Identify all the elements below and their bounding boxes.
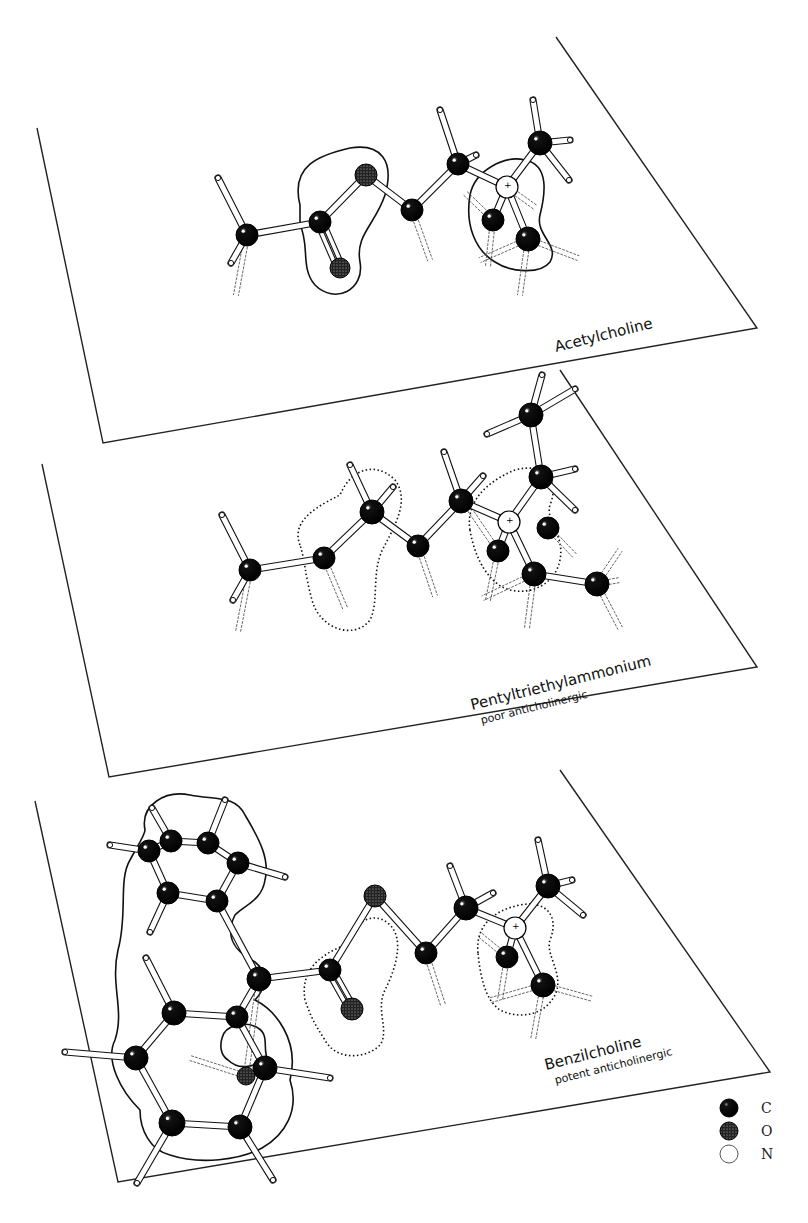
carbon-atom (454, 896, 478, 920)
carbon-atom (162, 1001, 186, 1025)
hydrogen-tip (566, 177, 571, 182)
carbon-atom (516, 227, 540, 251)
atom-highlight (259, 1062, 262, 1065)
oxygen-atom (364, 885, 386, 907)
atom-highlight (130, 1052, 133, 1055)
oxygen-atom (355, 164, 377, 186)
nitrogen-atom-icon (720, 1145, 738, 1163)
atom-highlight (319, 553, 322, 556)
hydrogen-tip (134, 1180, 139, 1185)
atom-highlight (245, 565, 248, 568)
atom-highlight (203, 838, 206, 841)
atom-highlight (166, 1117, 169, 1120)
panel-acetylcholine: +Acetylcholine (37, 37, 757, 443)
hydrogen-tip (480, 473, 485, 478)
oxygen-atom (330, 258, 350, 278)
bond (330, 896, 375, 970)
carbon-atom (239, 559, 261, 581)
hydrogen-tip (572, 386, 577, 391)
hydrogen-tip (215, 175, 220, 180)
carbon-atom (407, 535, 429, 557)
atom-highlight (315, 217, 318, 220)
atom-highlight (413, 541, 416, 544)
carbon-atom (496, 946, 518, 968)
atom-highlight (234, 1121, 237, 1124)
hydrogen-tip (580, 912, 585, 917)
molecule-label: Acetylcholine (553, 314, 655, 356)
positive-charge-icon: + (512, 921, 520, 931)
carbon-atom (124, 1046, 148, 1070)
atom-highlight (325, 965, 328, 968)
atom-highlight (534, 137, 537, 140)
hydrogen-tip (441, 449, 446, 454)
atom-highlight (168, 1007, 171, 1010)
carbon-atom (519, 403, 543, 427)
carbon-atom (449, 489, 473, 513)
atom-highlight (453, 159, 456, 162)
hydrogen-tip (230, 597, 235, 602)
hydrogen-tip (569, 877, 574, 882)
hydrogen-tip (149, 805, 154, 810)
atom-highlight (543, 523, 546, 526)
carbon-atom (227, 852, 249, 874)
panel-benzilcholine: +Benzilcholinepotent anticholinergic (35, 770, 770, 1186)
hydrogen-tip (484, 431, 489, 436)
atom-highlight (455, 495, 458, 498)
carbon-atom (447, 153, 469, 175)
atom-highlight (522, 233, 525, 236)
positive-charge-icon: + (506, 515, 514, 525)
carbon-atom (536, 874, 560, 898)
hydrogen-tip (282, 874, 287, 879)
legend-item-oxygen: O (720, 1122, 772, 1140)
molecule-name: Acetylcholine (553, 314, 655, 356)
hydrogen-tip (539, 372, 544, 377)
atom-highlight (212, 896, 215, 899)
carbon-atom (253, 1056, 277, 1080)
carbon-atom (585, 572, 609, 596)
carbon-atom (529, 465, 553, 489)
legend-label-carbon: C (761, 1100, 772, 1116)
atom-highlight (407, 205, 410, 208)
hydrogen-tip (228, 260, 233, 265)
atom-highlight (144, 846, 147, 849)
carbon-atom (160, 830, 182, 852)
carbon-atom (236, 224, 258, 246)
hydrogen-tip (572, 466, 577, 471)
molecule-label: Benzilcholinepotent anticholinergic (543, 1026, 674, 1089)
legend: C O N (720, 1099, 773, 1163)
atom-highlight (488, 215, 491, 218)
atom-highlight (535, 471, 538, 474)
carbon-atom (319, 959, 341, 981)
atom-highlight (166, 836, 169, 839)
carbon-atom (228, 1115, 252, 1139)
hydrogen-tip (572, 507, 577, 512)
hydrogen-tip (143, 955, 148, 960)
carbon-atom (157, 882, 179, 904)
carbon-atom (159, 1110, 185, 1136)
atom-highlight (366, 506, 369, 509)
carbon-atom-icon (720, 1099, 738, 1117)
hydrogen-tip (62, 1049, 67, 1054)
carbon-atom (401, 199, 423, 221)
carbon-atom (482, 209, 504, 231)
hydrogen-tip (222, 797, 227, 802)
hydrogen-tip (107, 842, 112, 847)
carbon-atom (247, 967, 271, 991)
hydrogen-tip (447, 863, 452, 868)
atom-highlight (591, 578, 594, 581)
carbon-atom (197, 832, 219, 854)
hydrogen-tip (437, 107, 442, 112)
legend-item-nitrogen: N (720, 1145, 773, 1163)
hydrogen-tip (390, 484, 395, 489)
atom-highlight (253, 973, 256, 976)
atom-highlight (502, 952, 505, 955)
hydrogen-tip (535, 837, 540, 842)
hydrogen-tip (473, 152, 478, 157)
atom-highlight (163, 888, 166, 891)
legend-label-oxygen: O (761, 1123, 772, 1139)
positive-charge-icon: + (504, 180, 512, 190)
atom-highlight (232, 1012, 235, 1015)
oxygen-atom (237, 1067, 255, 1085)
atom-highlight (460, 902, 463, 905)
carbon-atom (487, 540, 509, 562)
